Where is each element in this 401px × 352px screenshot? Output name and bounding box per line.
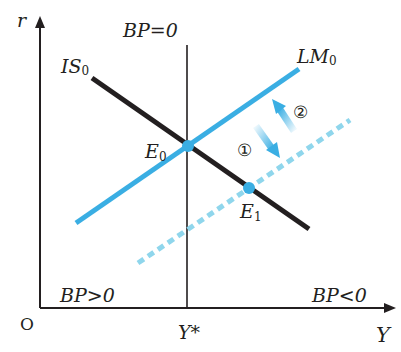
y-axis-arrow-icon <box>35 16 45 28</box>
is-label: IS0 <box>60 55 89 78</box>
region-right-label: BP<0 <box>311 284 367 306</box>
bp-label: BP=0 <box>122 19 178 41</box>
shift-down-arrow-icon <box>256 126 280 158</box>
x-axis-arrow-icon <box>384 303 396 313</box>
point-e1 <box>243 182 255 194</box>
is-lm-bp-diagram: r Y O Y* BP=0 IS0 LM0 E0 E1 ① ② BP>0 BP<… <box>0 0 401 352</box>
region-left-label: BP>0 <box>59 284 115 306</box>
point-e0 <box>182 140 194 152</box>
x-axis-label: Y <box>376 323 392 347</box>
e1-label: E1 <box>239 200 262 224</box>
origin-label: O <box>20 314 34 334</box>
y-axis-label: r <box>17 9 28 31</box>
y-axis <box>35 16 45 308</box>
shift-up-label: ② <box>293 102 308 122</box>
e0-label: E0 <box>144 140 167 164</box>
lm-label: LM0 <box>296 45 337 68</box>
shift-up-arrow-icon <box>272 99 294 131</box>
y-star-label: Y* <box>178 321 201 343</box>
shift-down-label: ① <box>237 140 252 160</box>
